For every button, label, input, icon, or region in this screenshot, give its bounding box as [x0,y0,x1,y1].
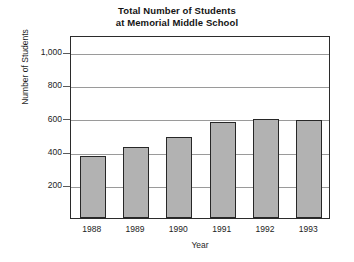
bar-1990 [166,137,192,219]
y-tick-mark-200 [63,186,70,187]
bar-chart-figure: Total Number of Students at Memorial Mid… [0,0,354,262]
y-tick-mark-800 [63,86,70,87]
x-tick-label-1989: 1989 [112,224,158,234]
y-tick-label-200: 200 [16,181,62,190]
y-tick-label-1000: 1,000 [16,48,62,57]
chart-title-line-2: at Memorial Middle School [0,17,354,29]
bar-1989 [123,147,149,218]
x-tick-label-1990: 1990 [155,224,201,234]
x-tick-label-1993: 1993 [285,224,331,234]
chart-title-line-1: Total Number of Students [0,5,354,17]
x-tick-label-1992: 1992 [242,224,288,234]
x-axis-title: Year [70,240,330,250]
y-axis-title: Number of Students [20,2,30,132]
x-tick-label-1988: 1988 [69,224,115,234]
y-tick-mark-1000 [63,53,70,54]
bar-1991 [210,122,236,219]
y-tick-mark-600 [63,119,70,120]
bar-1988 [80,156,106,218]
plot-area [70,36,330,219]
y-tick-mark-400 [63,153,70,154]
bars-layer [71,37,329,218]
y-tick-label-600: 600 [16,115,62,124]
y-tick-label-400: 400 [16,148,62,157]
y-tick-label-800: 800 [16,81,62,90]
bar-1993 [296,120,322,218]
chart-title: Total Number of Students at Memorial Mid… [0,5,354,29]
x-tick-label-1991: 1991 [199,224,245,234]
bar-1992 [253,119,279,218]
